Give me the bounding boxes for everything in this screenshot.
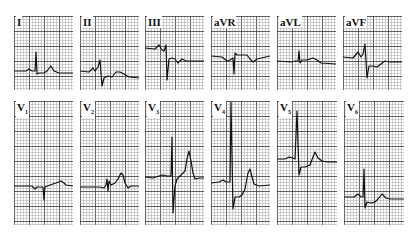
- ecg-lead-panel-avl: aVL: [277, 16, 336, 90]
- lead-label: V6: [346, 101, 359, 118]
- ecg-lead-panel-i: I: [14, 16, 73, 90]
- ecg-grid-and-trace: [344, 101, 404, 225]
- lead-label-text: V: [214, 101, 222, 113]
- lead-label-text: aVL: [280, 16, 301, 28]
- ecg-lead-panel-avf: aVF: [343, 16, 402, 90]
- lead-label-subscript: 5: [288, 109, 291, 115]
- lead-label-text: V: [148, 101, 156, 113]
- ecg-grid-and-trace: [277, 101, 337, 225]
- ecg-lead-panel-v4: V4: [211, 101, 270, 225]
- ecg-lead-panel-iii: III: [145, 16, 204, 90]
- lead-label: III: [147, 16, 162, 28]
- lead-label: V1: [16, 101, 29, 118]
- lead-label: II: [82, 16, 93, 28]
- lead-label-subscript: 4: [222, 109, 225, 115]
- lead-label-text: I: [17, 16, 21, 28]
- ecg-lead-panel-v6: V6: [344, 101, 404, 225]
- ecg-grid-and-trace: [211, 101, 270, 225]
- lead-label: V5: [279, 101, 292, 118]
- lead-label-text: aVR: [214, 16, 235, 28]
- ecg-lead-panel-v1: V1: [14, 101, 73, 225]
- ecg-lead-panel-ii: II: [80, 16, 139, 90]
- ecg-grid-and-trace: [145, 101, 204, 225]
- lead-label-text: V: [83, 101, 91, 113]
- lead-label: V3: [147, 101, 160, 118]
- lead-label: I: [16, 16, 22, 28]
- ecg-lead-panel-v3: V3: [145, 101, 204, 225]
- ecg-grid-and-trace: [80, 101, 139, 225]
- lead-label-text: V: [347, 101, 355, 113]
- lead-label-text: II: [83, 16, 92, 28]
- ecg-lead-panel-avr: aVR: [211, 16, 270, 90]
- lead-label: V4: [213, 101, 226, 118]
- ecg-grid-and-trace: [14, 16, 73, 90]
- lead-label-text: III: [148, 16, 161, 28]
- lead-label-subscript: 2: [91, 109, 94, 115]
- ecg-grid-and-trace: [14, 101, 73, 225]
- lead-label: aVL: [279, 16, 302, 28]
- lead-label-subscript: 6: [355, 109, 358, 115]
- lead-label-text: aVF: [346, 16, 366, 28]
- lead-label: aVF: [345, 16, 367, 28]
- lead-label-subscript: 1: [25, 109, 28, 115]
- lead-label-text: V: [280, 101, 288, 113]
- ecg-lead-panel-v5: V5: [277, 101, 337, 225]
- lead-label-subscript: 3: [156, 109, 159, 115]
- ecg-lead-panel-v2: V2: [80, 101, 139, 225]
- lead-label: V2: [82, 101, 95, 118]
- lead-label-text: V: [17, 101, 25, 113]
- lead-label: aVR: [213, 16, 236, 28]
